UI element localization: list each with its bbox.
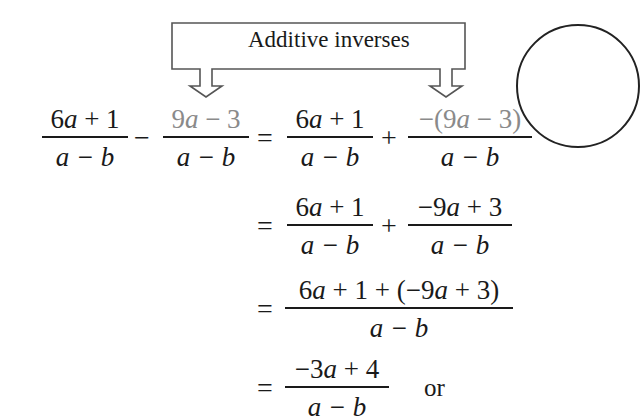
denominator: a − b [56,138,115,171]
numerator: −9a + 3 [416,194,504,224]
numerator-highlighted: −(9a − 3) [417,106,523,136]
denominator: a − b [431,226,490,259]
equals-sign: = [257,124,273,152]
denominator: a − b [177,138,236,171]
fraction-negated-9a-minus-3: −(9a − 3) a − b [408,106,532,171]
numerator: 6a + 1 [293,194,366,224]
numerator: 6a + 1 + (−9a + 3) [297,277,501,307]
fraction-6a-plus-1-rhs: 6a + 1 a − b [287,106,373,171]
numerator-highlighted: 9a − 3 [169,106,242,136]
numerator: 6a + 1 [48,106,121,136]
fraction-neg-9a-plus-3: −9a + 3 a − b [408,194,512,259]
denominator: a − b [301,138,360,171]
plus-operator: + [381,124,397,152]
minus-operator: − [134,124,150,152]
numerator: 6a + 1 [293,106,366,136]
denominator: a − b [441,138,500,171]
fraction-6a-plus-1: 6a + 1 a − b [287,194,373,259]
fraction-9a-minus-3: 9a − 3 a − b [163,106,249,171]
denominator: a − b [308,388,367,420]
partial-circle-decoration [516,24,640,148]
plus-operator: + [381,212,397,240]
equals-sign: = [257,295,273,323]
fraction-6a-plus-1-lhs: 6a + 1 a − b [42,106,128,171]
equals-sign: = [257,374,273,402]
equals-sign: = [257,212,273,240]
fraction-combined-numerator: 6a + 1 + (−9a + 3) a − b [285,277,513,342]
callout-label: Additive inverses [248,28,410,51]
fraction-neg-3a-plus-4: −3a + 4 a − b [285,356,389,420]
denominator: a − b [301,226,360,259]
denominator: a − b [370,309,429,342]
numerator: −3a + 4 [293,356,381,386]
or-connector: or [424,375,445,400]
